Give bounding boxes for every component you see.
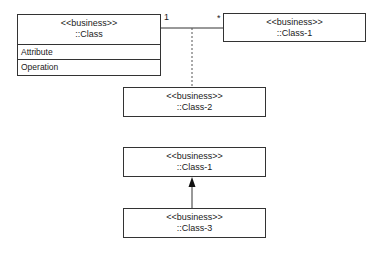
attribute-compartment[interactable]: Attribute bbox=[18, 44, 160, 59]
class1-top-name: ::Class-1 bbox=[224, 28, 365, 39]
class3-box[interactable]: <<business>> ::Class-3 bbox=[123, 208, 266, 238]
class2-stereotype: <<business>> bbox=[124, 91, 265, 102]
class1-bottom-box[interactable]: <<business>> ::Class-1 bbox=[123, 147, 266, 177]
class3-name: ::Class-3 bbox=[124, 223, 265, 234]
class-box[interactable]: <<business>> ::Class Attribute Operation bbox=[17, 14, 161, 76]
arrowhead-icon bbox=[189, 177, 196, 187]
class3-stereotype: <<business>> bbox=[124, 212, 265, 223]
operation-compartment[interactable]: Operation bbox=[18, 59, 160, 75]
class2-name: ::Class-2 bbox=[124, 102, 265, 113]
target-multiplicity: * bbox=[217, 13, 221, 23]
source-multiplicity: 1 bbox=[164, 12, 169, 22]
class1-bottom-name: ::Class-1 bbox=[124, 162, 265, 173]
class1-bottom-stereotype: <<business>> bbox=[124, 151, 265, 162]
class-stereotype: <<business>> bbox=[18, 18, 160, 29]
class1-top-box[interactable]: <<business>> ::Class-1 bbox=[223, 13, 366, 42]
class1-top-stereotype: <<business>> bbox=[224, 17, 365, 28]
class-name: ::Class bbox=[18, 29, 160, 40]
class2-box[interactable]: <<business>> ::Class-2 bbox=[123, 87, 266, 117]
